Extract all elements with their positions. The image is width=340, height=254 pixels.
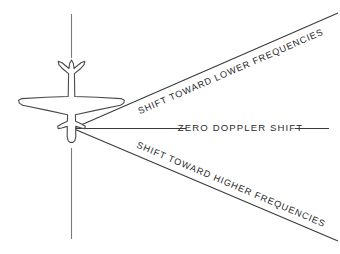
center-ray-label: ZERO DOPPLER SHIFT xyxy=(178,122,303,133)
lower-ray-line xyxy=(73,129,338,242)
lower-ray-label: SHIFT TOWARD HIGHER FREQUENCIES xyxy=(135,140,327,229)
aircraft-silhouette xyxy=(19,60,125,142)
diagram-canvas: SHIFT TOWARD LOWER FREQUENCIES ZERO DOPP… xyxy=(0,0,340,254)
aircraft-icon xyxy=(19,60,125,142)
doppler-shift-diagram: SHIFT TOWARD LOWER FREQUENCIES ZERO DOPP… xyxy=(0,0,340,254)
upper-ray-label: SHIFT TOWARD LOWER FREQUENCIES xyxy=(137,27,326,116)
upper-ray-line xyxy=(73,13,338,129)
